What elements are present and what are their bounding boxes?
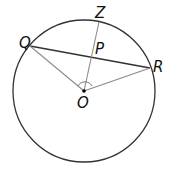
radius-or	[84, 68, 150, 91]
center-point	[82, 89, 86, 93]
radius-oq	[30, 46, 84, 91]
label-p: P	[95, 40, 105, 58]
label-q: Q	[19, 34, 31, 52]
circle-diagram: Z Q P R O	[0, 0, 173, 169]
label-o: O	[77, 94, 89, 112]
label-r: R	[153, 58, 163, 76]
label-z: Z	[94, 4, 106, 22]
